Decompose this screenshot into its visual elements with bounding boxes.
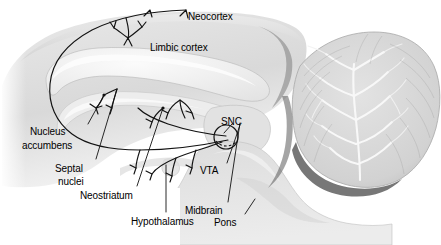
label-pons: Pons (214, 217, 236, 228)
label-vta: VTA (200, 165, 218, 176)
label-neostriatum: Neostriatum (80, 190, 133, 201)
label-limbic-cortex: Limbic cortex (150, 42, 208, 53)
label-midbrain: Midbrain (185, 205, 223, 216)
figure-canvas: NeocortexLimbic cortexSNCVTANucleusaccum… (0, 0, 441, 245)
label-nucleus-accumbens-2: accumbens (22, 140, 72, 151)
label-snc: SNC (221, 116, 242, 127)
label-septal-nuclei: Septal (55, 163, 83, 174)
label-neocortex: Neocortex (188, 11, 233, 22)
cerebellum (292, 32, 440, 197)
terminal-hypothalamus-fork (146, 171, 152, 180)
label-hypothalamus: Hypothalamus (131, 216, 194, 227)
label-nucleus-accumbens: Nucleus (30, 126, 65, 137)
label-septal-nuclei-2: nuclei (58, 176, 84, 187)
